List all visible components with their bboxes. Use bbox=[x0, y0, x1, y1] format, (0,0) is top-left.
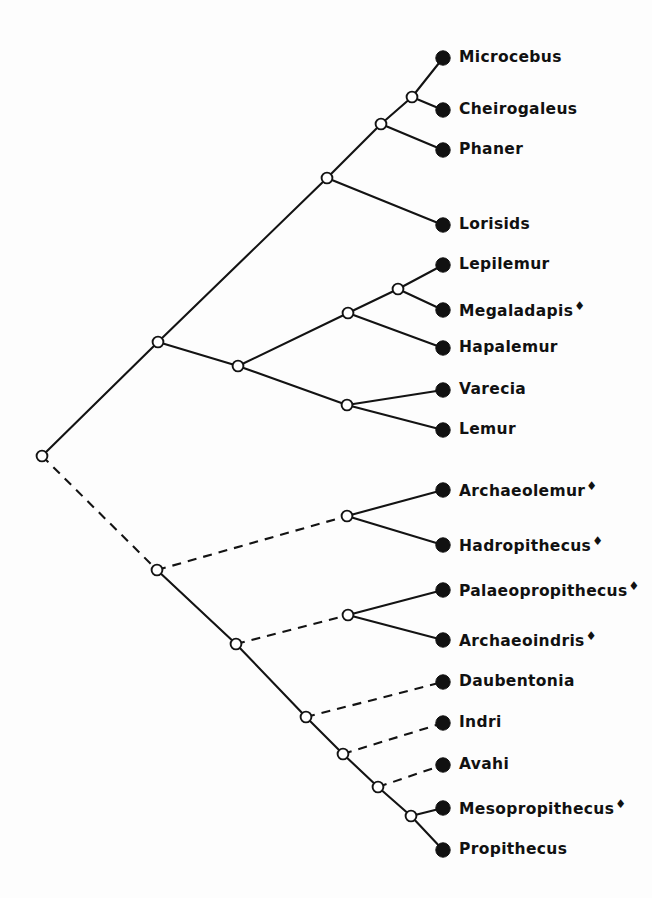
internal-node-cheirogaleoidea[interactable] bbox=[322, 173, 333, 184]
taxon-name: Mesopropithecus bbox=[459, 800, 614, 818]
tip-label-palaeopropithecus: Palaeopropithecus♦ bbox=[459, 580, 640, 600]
tip-node-lorisids[interactable] bbox=[436, 218, 450, 232]
tip-label-propithecus: Propithecus bbox=[459, 842, 567, 858]
branch-root-to-upper bbox=[42, 342, 158, 456]
branch-avahinode-to-avahi bbox=[378, 765, 443, 787]
branch-lepi-to-lepipair bbox=[348, 289, 398, 313]
tip-label-archaeolemur: Archaeolemur♦ bbox=[459, 480, 597, 500]
phylogenetic-tree-figure: MicrocebusCheirogaleusPhanerLorisidsLepi… bbox=[0, 0, 652, 898]
tip-label-daubentonia: Daubentonia bbox=[459, 674, 575, 690]
tip-label-phaner: Phaner bbox=[459, 142, 523, 158]
taxon-name: Palaeopropithecus bbox=[459, 582, 628, 600]
extinct-marker-icon: ♦ bbox=[629, 579, 640, 593]
taxon-name: Indri bbox=[459, 713, 502, 731]
tip-node-propithecus[interactable] bbox=[436, 843, 450, 857]
tip-label-avahi: Avahi bbox=[459, 757, 509, 773]
tip-node-cheirogaleus[interactable] bbox=[436, 103, 450, 117]
branch-lower-to-archaeolemurid bbox=[157, 516, 347, 570]
taxon-name: Cheirogaleus bbox=[459, 100, 577, 118]
branch-indrioid-to-daubnode bbox=[236, 644, 306, 717]
tip-node-megaladapis[interactable] bbox=[436, 303, 450, 317]
tip-node-hadropithecus[interactable] bbox=[436, 538, 450, 552]
tip-label-archaeoindris: Archaeoindris♦ bbox=[459, 630, 597, 650]
tip-node-phaner[interactable] bbox=[436, 143, 450, 157]
taxon-name: Megaladapis bbox=[459, 302, 573, 320]
tip-label-lepilemur: Lepilemur bbox=[459, 257, 550, 273]
internal-node-daubentonia-node[interactable] bbox=[301, 712, 312, 723]
taxon-name: Microcebus bbox=[459, 48, 562, 66]
branch-root-to-lower bbox=[42, 456, 157, 570]
branch-upper-to-cheirogaleoidea bbox=[158, 178, 327, 342]
internal-node-microcebus-pair[interactable] bbox=[407, 92, 418, 103]
tip-label-cheirogaleus: Cheirogaleus bbox=[459, 102, 577, 118]
extinct-marker-icon: ♦ bbox=[615, 797, 626, 811]
internal-node-upper-clade[interactable] bbox=[153, 337, 164, 348]
taxon-name: Propithecus bbox=[459, 840, 567, 858]
branch-avahinode-to-propnode bbox=[378, 787, 411, 816]
taxon-name: Hadropithecus bbox=[459, 537, 591, 555]
extinct-marker-icon: ♦ bbox=[586, 479, 597, 493]
internal-node-archaeolemurid[interactable] bbox=[342, 511, 353, 522]
internal-node-lower-clade[interactable] bbox=[152, 565, 163, 576]
branch-cheiro-to-lorisids bbox=[327, 178, 443, 225]
internal-node-palaeoprop-pair[interactable] bbox=[343, 610, 354, 621]
branch-cheirogaleidae-to-phaner bbox=[381, 124, 443, 150]
internal-node-root[interactable] bbox=[37, 451, 48, 462]
taxon-name: Varecia bbox=[459, 380, 526, 398]
taxon-name: Archaeoindris bbox=[459, 632, 585, 650]
tip-node-hapalemur[interactable] bbox=[436, 341, 450, 355]
branch-daubnode-to-indrinode bbox=[306, 717, 343, 754]
tip-node-mesopropithecus[interactable] bbox=[436, 801, 450, 815]
branch-indrinode-to-indri bbox=[343, 723, 443, 754]
tip-label-microcebus: Microcebus bbox=[459, 50, 562, 66]
taxon-name: Phaner bbox=[459, 140, 523, 158]
tip-label-megaladapis: Megaladapis♦ bbox=[459, 300, 585, 320]
tip-node-palaeopropithecus[interactable] bbox=[436, 583, 450, 597]
taxon-name: Lemur bbox=[459, 420, 516, 438]
tip-label-mesopropithecus: Mesopropithecus♦ bbox=[459, 798, 626, 818]
branch-lower-to-indrioid bbox=[157, 570, 236, 644]
internal-node-avahi-node[interactable] bbox=[373, 782, 384, 793]
branch-lemuridpair-to-lemur bbox=[347, 405, 443, 430]
branch-palaeopair-to-palaeo bbox=[348, 590, 443, 615]
extinct-marker-icon: ♦ bbox=[592, 534, 603, 548]
tip-node-lepilemur[interactable] bbox=[436, 258, 450, 272]
extinct-marker-icon: ♦ bbox=[574, 299, 585, 313]
tip-label-hadropithecus: Hadropithecus♦ bbox=[459, 535, 603, 555]
branch-lepi-to-hapalemur bbox=[348, 313, 443, 348]
internal-node-lemurid-pair[interactable] bbox=[342, 400, 353, 411]
branch-lemuridae-to-lepilemuridae bbox=[238, 313, 348, 366]
internal-node-propithecus-node[interactable] bbox=[406, 811, 417, 822]
tip-node-layer bbox=[436, 51, 450, 857]
branch-lemuridae-to-lemurid-pair bbox=[238, 366, 347, 405]
internal-node-indrioid-stem[interactable] bbox=[231, 639, 242, 650]
tip-node-indri[interactable] bbox=[436, 716, 450, 730]
tip-node-microcebus[interactable] bbox=[436, 51, 450, 65]
internal-node-indri-node[interactable] bbox=[338, 749, 349, 760]
taxon-name: Daubentonia bbox=[459, 672, 575, 690]
taxon-name: Hapalemur bbox=[459, 338, 558, 356]
tip-label-indri: Indri bbox=[459, 715, 502, 731]
internal-node-cheirogaleidae[interactable] bbox=[376, 119, 387, 130]
branch-indrinode-to-avahinode bbox=[343, 754, 378, 787]
extinct-marker-icon: ♦ bbox=[586, 629, 597, 643]
tip-node-varecia[interactable] bbox=[436, 383, 450, 397]
tip-node-archaeoindris[interactable] bbox=[436, 633, 450, 647]
tip-node-lemur[interactable] bbox=[436, 423, 450, 437]
branch-layer bbox=[42, 58, 443, 850]
internal-node-layer bbox=[37, 92, 418, 822]
branch-palaeopair-to-archindris bbox=[348, 615, 443, 640]
tip-label-hapalemur: Hapalemur bbox=[459, 340, 558, 356]
tip-node-avahi[interactable] bbox=[436, 758, 450, 772]
branch-daubnode-to-daubentonia bbox=[306, 682, 443, 717]
branch-upper-to-lemuridae bbox=[158, 342, 238, 366]
internal-node-lepilemuridae[interactable] bbox=[343, 308, 354, 319]
tip-node-archaeolemur[interactable] bbox=[436, 483, 450, 497]
branch-arch-to-archaeolemur bbox=[347, 490, 443, 516]
tip-node-daubentonia[interactable] bbox=[436, 675, 450, 689]
branch-indrioid-to-palaeopair bbox=[236, 615, 348, 644]
internal-node-lepilemur-pair[interactable] bbox=[393, 284, 404, 295]
tip-label-varecia: Varecia bbox=[459, 382, 526, 398]
taxon-name: Archaeolemur bbox=[459, 482, 585, 500]
internal-node-lemuridae-stem[interactable] bbox=[233, 361, 244, 372]
